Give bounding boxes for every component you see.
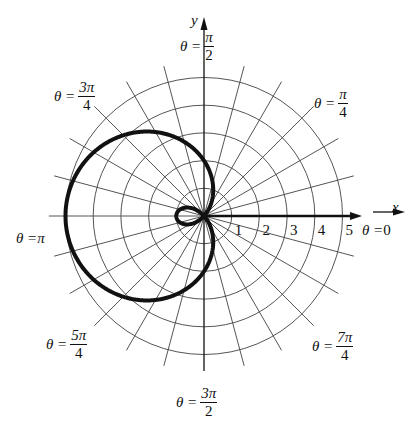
x-axis-label: x — [392, 199, 399, 216]
radial-tick-label: 2 — [262, 222, 270, 239]
radial-tick-label: 1 — [235, 222, 243, 239]
radial-tick-label: 4 — [318, 222, 326, 239]
grid-spoke — [204, 138, 338, 216]
radial-tick-label: 5 — [346, 222, 354, 239]
grid-spoke — [204, 66, 244, 216]
grid-spoke — [70, 216, 204, 294]
grid-spoke — [94, 216, 204, 326]
angle-label-pi: θ = π — [16, 230, 45, 247]
grid-spoke — [204, 82, 282, 216]
angle-label-prefix: θ = — [180, 38, 201, 55]
angle-label-7pi-over-4: θ = 7π4 — [312, 330, 353, 363]
grid-spoke — [204, 216, 282, 350]
grid-spoke — [70, 138, 204, 216]
angle-label-pi-over-4: θ = π4 — [314, 87, 348, 120]
grid-spoke — [204, 216, 354, 256]
angle-label-3pi-over-4: θ = 3π4 — [54, 80, 95, 113]
grid-spoke — [94, 106, 204, 216]
angle-label-5pi-over-4: θ = 5π4 — [46, 328, 87, 361]
radial-tick-label: 3 — [290, 222, 298, 239]
angle-label-0: θ = 0 — [362, 222, 391, 239]
y-axis-label: y — [191, 12, 198, 29]
angle-label-3pi-over-2: θ = 3π2 — [176, 386, 217, 419]
grid-spoke — [204, 176, 354, 216]
angle-label-pi-over-2: θ = π2 — [180, 30, 214, 63]
grid-spoke — [204, 106, 314, 216]
polar-axis-arrow-icon — [350, 212, 362, 220]
